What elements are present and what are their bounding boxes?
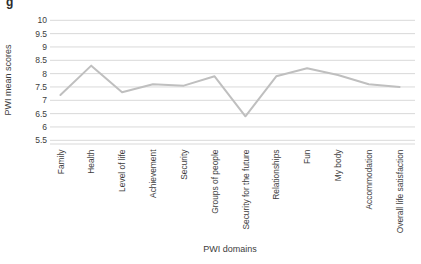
y-tick-label: 9	[42, 42, 47, 52]
x-tick-label: Overall life satisfaction	[395, 149, 405, 233]
y-tick-label: 6	[42, 122, 47, 132]
x-tick-label: Groups of people	[210, 149, 220, 214]
y-tick-label: 7	[42, 95, 47, 105]
x-tick-label: Accommodation	[364, 149, 374, 209]
x-tick-label: Fun	[302, 149, 312, 164]
cropped-caption-glyph: g	[6, 0, 13, 9]
x-tick-label: Health	[86, 149, 96, 174]
x-tick-label: My body	[333, 149, 343, 181]
y-tick-label: 10	[38, 15, 48, 25]
x-tick-label: Family	[56, 149, 66, 174]
x-tick-label: Achievement	[148, 149, 158, 198]
x-tick-label: Level of life	[117, 149, 127, 192]
y-tick-label: 9.5	[35, 29, 47, 39]
x-tick-label: Relationships	[271, 150, 281, 200]
y-tick-label: 5.5	[35, 135, 47, 145]
line-chart-canvas: 5.566.577.588.599.510 FamilyHealthLevel …	[0, 0, 421, 264]
y-tick-label: 8.5	[35, 55, 47, 65]
x-tick-label: Security for the future	[241, 149, 251, 229]
pwi-line-chart-figure: g 5.566.577.588.599.510 FamilyHealthLeve…	[0, 0, 421, 264]
y-axis-title: PWI mean scores	[3, 44, 13, 116]
y-tick-label: 8	[42, 69, 47, 79]
y-tick-label: 6.5	[35, 109, 47, 119]
x-axis-title: PWI domains	[203, 244, 257, 254]
x-tick-label: Security	[179, 149, 189, 180]
y-tick-label: 7.5	[35, 82, 47, 92]
x-axis-tick-labels: FamilyHealthLevel of lifeAchievementSecu…	[56, 149, 405, 234]
y-axis-tick-labels: 5.566.577.588.599.510	[35, 15, 47, 145]
